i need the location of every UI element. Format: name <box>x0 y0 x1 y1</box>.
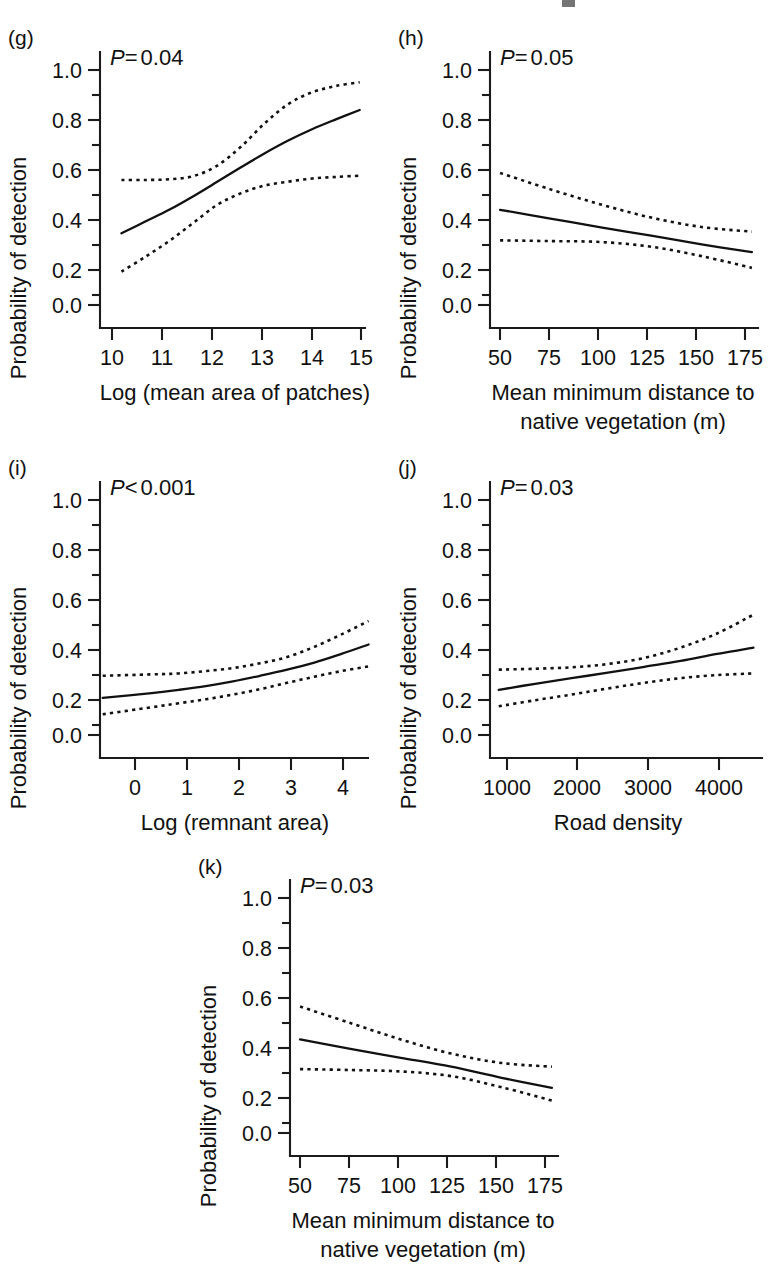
panel-g-pvalue-value: 0.04 <box>141 45 184 70</box>
panel-g-ytick-5: 0.2 <box>52 259 82 283</box>
panel-h-xtick-4: 125 <box>629 346 665 370</box>
panel-g-xtick-6: 15 <box>349 346 373 370</box>
panel-h-ytick-5: 0.2 <box>442 259 472 283</box>
panel-k-y-tick-labels: 1.0 0.8 0.6 0.4 0.2 0.0 <box>242 887 272 1146</box>
panel-h-axes <box>490 52 758 328</box>
panel-i-pvalue-relation: < <box>125 475 138 500</box>
panel-g-upper-ci-curve <box>121 82 359 180</box>
panel-h-pvalue-value: 0.05 <box>531 45 574 70</box>
panel-k-curves <box>300 1007 552 1101</box>
panel-j-xlabel: Road density <box>554 810 682 835</box>
panel-g-fitted-curve <box>121 110 359 233</box>
panel-j-ytick-5: 0.2 <box>442 689 472 713</box>
panel-j-y-ticks <box>478 500 490 735</box>
panel-g-ytick-1: 1.0 <box>52 59 82 83</box>
panel-k-ytick-2: 0.8 <box>242 937 272 961</box>
panel-h-x-ticks <box>500 328 745 340</box>
panel-j-lower-ci-curve <box>499 673 754 706</box>
panel-i-chart: (i) P<0.001 Probability of detection <box>0 448 390 848</box>
panel-j-ytick-3: 0.6 <box>442 589 472 613</box>
panel-h-fitted-curve <box>500 210 752 252</box>
panel-g-lower-ci-curve <box>121 176 359 272</box>
panel-k-xtick-5: 150 <box>478 1174 514 1198</box>
panel-j-xtick-2: 2000 <box>553 776 601 800</box>
panel-j-xtick-4: 4000 <box>695 776 743 800</box>
panel-k-xlabel-line1: Mean minimum distance to <box>292 1208 555 1233</box>
panel-i-axes <box>100 482 368 758</box>
panel-k-ytick-5: 0.2 <box>242 1087 272 1111</box>
panel-j-curves <box>499 615 754 707</box>
panel-k-xtick-3: 100 <box>380 1174 416 1198</box>
panel-g-y-ticks <box>88 70 100 305</box>
panel-h-ytick-1: 1.0 <box>442 59 472 83</box>
panel-g-ylabel: Probability of detection <box>6 157 31 380</box>
panel-g-letter: (g) <box>8 26 34 49</box>
panel-k-ytick-4: 0.4 <box>242 1037 272 1061</box>
panel-h-xlabel-line1: Mean minimum distance to <box>492 380 755 405</box>
panel-i-x-tick-labels: 0 1 2 3 4 <box>129 776 349 800</box>
panel-h-ytick-4: 0.4 <box>442 209 472 233</box>
panel-i-xlabel: Log (remnant area) <box>141 810 329 835</box>
panel-g-x-ticks <box>112 328 361 340</box>
panel-j-upper-ci-curve <box>499 615 754 670</box>
panel-h-y-tick-labels: 1.0 0.8 0.6 0.4 0.2 0.0 <box>442 59 472 318</box>
panel-j-letter: (j) <box>398 456 417 479</box>
panel-j-pvalue-relation: = <box>515 475 528 500</box>
panel-k: (k) P=0.03 Probability of detection <box>190 840 581 1266</box>
panel-j-ytick-4: 0.4 <box>442 639 472 663</box>
panel-g-axes <box>100 52 365 328</box>
panel-k-xtick-1: 50 <box>288 1174 312 1198</box>
panel-g-pvalue: P=0.04 <box>110 45 183 70</box>
panel-j-pvalue-value: 0.03 <box>531 475 574 500</box>
panel-h-upper-ci-curve <box>500 173 752 232</box>
panel-i: (i) P<0.001 Probability of detection <box>0 448 390 848</box>
panel-j-ytick-1: 1.0 <box>442 489 472 513</box>
panel-g-xlabel: Log (mean area of patches) <box>100 380 370 405</box>
panel-h-letter: (h) <box>398 26 424 49</box>
panel-k-pvalue-value: 0.03 <box>331 873 374 898</box>
panel-g-ytick-2: 0.8 <box>52 109 82 133</box>
panel-h-xtick-3: 100 <box>580 346 616 370</box>
panel-k-xtick-6: 175 <box>527 1174 563 1198</box>
panel-j-y-tick-labels: 1.0 0.8 0.6 0.4 0.2 0.0 <box>442 489 472 748</box>
panel-i-xtick-1: 0 <box>129 776 141 800</box>
panel-k-xtick-4: 125 <box>429 1174 465 1198</box>
panel-i-curves <box>103 621 369 714</box>
panel-h-pvalue-symbol: P <box>500 45 515 70</box>
panel-k-ylabel: Probability of detection <box>196 985 221 1208</box>
panel-k-letter: (k) <box>198 855 223 878</box>
panel-g-x-tick-labels: 10 11 12 13 14 15 <box>100 346 373 370</box>
panel-i-ytick-2: 0.8 <box>52 539 82 563</box>
panel-i-xtick-3: 2 <box>233 776 245 800</box>
panel-h-ylabel: Probability of detection <box>396 157 421 380</box>
panel-h-ytick-3: 0.6 <box>442 159 472 183</box>
panel-j: (j) P=0.03 Probability of detection <box>390 448 781 848</box>
panel-i-x-ticks <box>135 758 343 770</box>
panel-k-y-ticks <box>278 898 290 1133</box>
panel-g: (g) P=0.04 Probability of detection <box>0 18 390 418</box>
panel-i-ylabel: Probability of detection <box>6 587 31 810</box>
panel-j-pvalue-symbol: P <box>500 475 515 500</box>
panel-k-pvalue-symbol: P <box>300 873 315 898</box>
panel-g-chart: (g) P=0.04 Probability of detection <box>0 18 390 418</box>
panel-j-axes <box>490 482 762 758</box>
panel-g-pvalue-symbol: P <box>110 45 125 70</box>
panel-j-ylabel: Probability of detection <box>396 587 421 810</box>
panel-h-lower-ci-curve <box>500 240 752 267</box>
panel-j-chart: (j) P=0.03 Probability of detection <box>390 448 781 848</box>
panel-k-chart: (k) P=0.03 Probability of detection <box>190 840 581 1266</box>
panel-h-pvalue-relation: = <box>515 45 528 70</box>
panel-k-x-tick-labels: 50 75 100 125 150 175 <box>288 1174 563 1198</box>
panel-g-xtick-3: 12 <box>200 346 224 370</box>
panel-k-xtick-2: 75 <box>337 1174 361 1198</box>
panel-i-pvalue-symbol: P <box>110 475 125 500</box>
panel-i-xtick-4: 3 <box>285 776 297 800</box>
panel-g-y-tick-labels: 1.0 0.8 0.6 0.4 0.2 0.0 <box>52 59 82 318</box>
panel-j-x-tick-labels: 1000 2000 3000 4000 <box>483 776 743 800</box>
panel-k-x-ticks <box>300 1156 545 1168</box>
panel-k-ytick-3: 0.6 <box>242 987 272 1011</box>
page-scan-artifact <box>562 0 575 7</box>
panel-h-xlabel-line2: native vegetation (m) <box>520 409 725 434</box>
panel-i-ytick-6: 0.0 <box>52 724 82 748</box>
